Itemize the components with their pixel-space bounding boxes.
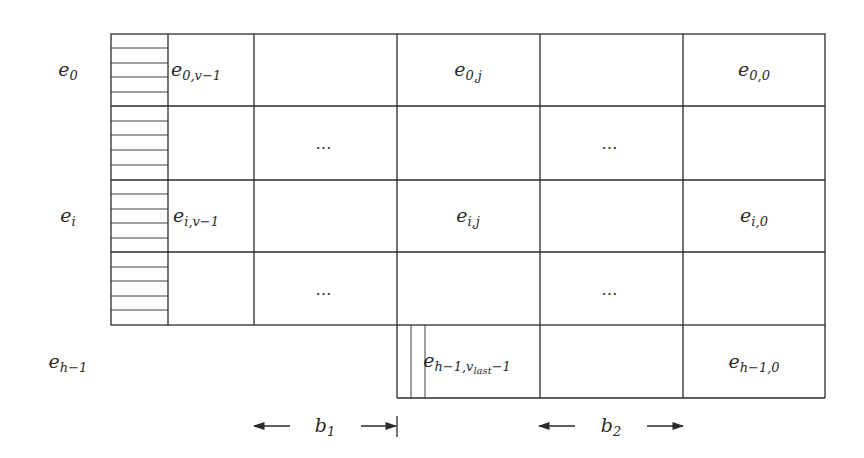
- cell-ei-v-1: ei,v−1: [173, 204, 219, 229]
- row-label-eh-1: eh−1: [49, 350, 88, 375]
- row-label-e0: e0: [58, 58, 78, 83]
- ellipsis: …: [602, 134, 621, 153]
- cell-e0-j: e0,j: [454, 58, 482, 83]
- ellipsis: …: [602, 280, 621, 299]
- ellipsis: …: [316, 280, 335, 299]
- cell-e0-v-1: e0,v−1: [171, 58, 221, 83]
- row-label-ei: ei: [60, 204, 75, 229]
- block-grid-diagram: [0, 0, 864, 458]
- cell-e0-0: e0,0: [738, 58, 770, 83]
- dimension-label-b2: b2: [601, 414, 621, 439]
- ellipsis: …: [316, 134, 335, 153]
- cell-eh-1-0: eh−1,0: [728, 350, 779, 375]
- padding-hatch-horizontal: [111, 48, 168, 310]
- cell-eh-1-vlast-1: eh−1,vlast−1: [423, 349, 511, 376]
- dimension-label-b1: b1: [315, 414, 335, 439]
- cell-ei-j: ei,j: [456, 204, 480, 229]
- cell-ei-0: ei,0: [740, 204, 768, 229]
